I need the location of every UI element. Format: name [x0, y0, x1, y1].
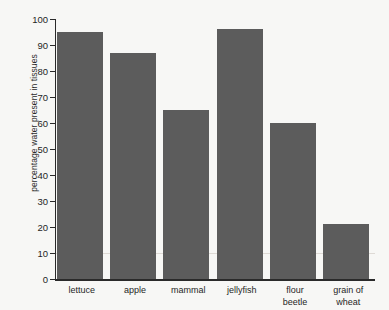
- y-tick-label: 100: [32, 14, 48, 25]
- bar-mammal: [163, 110, 209, 279]
- y-tick-mark: [50, 227, 55, 228]
- y-tick-mark: [50, 279, 55, 280]
- y-tick-mark: [50, 19, 55, 20]
- bar-jellyfish: [217, 29, 263, 279]
- y-tick-label: 40: [37, 170, 48, 181]
- y-tick-mark: [50, 253, 55, 254]
- y-tick-label: 60: [37, 118, 48, 129]
- y-tick-mark: [50, 71, 55, 72]
- y-tick-mark: [50, 201, 55, 202]
- y-tick-label: 0: [43, 274, 48, 285]
- y-tick-mark: [50, 97, 55, 98]
- y-tick-label: 80: [37, 66, 48, 77]
- y-tick-label: 50: [37, 144, 48, 155]
- x-axis-line: [55, 279, 375, 281]
- bar-apple: [110, 53, 156, 279]
- x-label-line: grain of: [316, 285, 381, 297]
- y-tick-label: 30: [37, 196, 48, 207]
- bar-flour-beetle: [270, 123, 316, 279]
- y-tick-label: 90: [37, 40, 48, 51]
- bar-lettuce: [57, 32, 103, 279]
- y-tick-label: 70: [37, 92, 48, 103]
- y-tick-label: 10: [37, 248, 48, 259]
- y-tick-mark: [50, 175, 55, 176]
- y-tick-label: 20: [37, 222, 48, 233]
- bar-grain-of-wheat: [323, 224, 369, 279]
- bar-chart: percentage water present in tissues 0102…: [0, 0, 389, 310]
- y-tick-mark: [50, 123, 55, 124]
- x-label-grain-of-wheat: grain ofwheat: [316, 285, 381, 308]
- y-tick-mark: [50, 149, 55, 150]
- x-label-line: wheat: [316, 297, 381, 309]
- y-tick-mark: [50, 45, 55, 46]
- plot-area: 0102030405060708090100 lettuceapplemamma…: [55, 19, 375, 279]
